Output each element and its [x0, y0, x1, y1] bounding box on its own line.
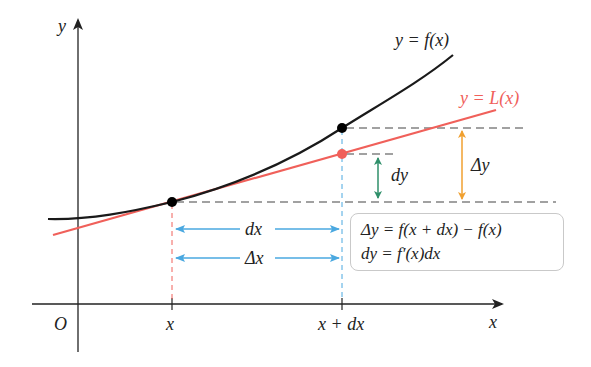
- point-xdx-fxdx: [337, 123, 347, 133]
- y-axis-label: y: [56, 16, 66, 36]
- formula-box: Δy = f(x + dx) − f(x) dy = f′(x)dx: [350, 213, 564, 271]
- point-x-fx: [167, 197, 177, 207]
- tangent-label: y = L(x): [458, 88, 519, 109]
- function-curve: [48, 55, 453, 219]
- dy-label: dy: [391, 165, 408, 185]
- differential-diagram: y x O x x + dx y = f(x) y = L(x) dx Δx d…: [0, 0, 591, 367]
- dx-label: dx: [245, 219, 262, 239]
- formula-delta-y: Δy = f(x + dx) − f(x): [361, 218, 563, 242]
- function-label: y = f(x): [393, 30, 449, 51]
- delta-x-label: Δx: [244, 248, 264, 268]
- x-plus-dx-tick-label: x + dx: [317, 314, 364, 334]
- point-xdx-Lxdx: [337, 149, 347, 159]
- x-tick-label: x: [165, 314, 174, 334]
- origin-label: O: [54, 314, 67, 334]
- formula-dy: dy = f′(x)dx: [361, 242, 563, 266]
- x-axis-label: x: [488, 312, 497, 332]
- delta-y-label: Δy: [470, 155, 490, 175]
